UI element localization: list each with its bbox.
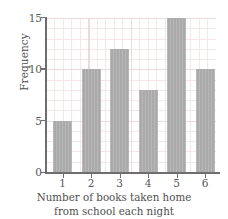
x-tick-label-5: 5	[162, 178, 192, 189]
y-axis-tick	[41, 120, 45, 121]
bar-chart-figure: Frequency 15 10 5 0 1 2 3 4 5 6 Number o…	[0, 0, 228, 218]
x-tick-label-4: 4	[133, 178, 163, 189]
bar-category-2	[82, 69, 101, 172]
bar-category-4	[139, 90, 158, 172]
x-axis-line	[45, 172, 220, 174]
bar-category-1	[53, 121, 72, 172]
bar-category-5	[167, 18, 186, 172]
y-tick-label: 0	[24, 167, 42, 178]
y-tick-label: 15	[24, 13, 42, 24]
y-axis-tick	[41, 172, 45, 173]
x-tick-label-2: 2	[76, 178, 106, 189]
y-axis-line	[45, 17, 47, 173]
y-axis-tick	[41, 68, 45, 69]
x-tick-label-1: 1	[48, 178, 78, 189]
x-tick-label-6: 6	[190, 178, 220, 189]
x-tick-label-3: 3	[105, 178, 135, 189]
x-axis-caption: Number of books taken home from school e…	[0, 191, 228, 218]
plot-area	[46, 18, 216, 172]
y-tick-label: 5	[24, 116, 42, 127]
bar-category-3	[110, 49, 129, 172]
y-axis-tick	[41, 17, 45, 18]
x-axis-caption-line-1: Number of books taken home	[0, 191, 228, 205]
y-axis-tick-labels: 15 10 5 0	[24, 0, 42, 218]
y-tick-label: 10	[24, 64, 42, 75]
bar-category-6	[196, 69, 215, 172]
x-axis-caption-line-2: from school each night	[0, 205, 228, 219]
